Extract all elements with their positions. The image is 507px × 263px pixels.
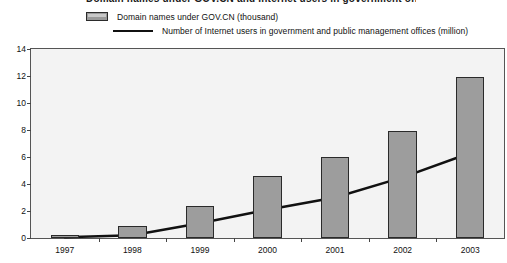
plot-area: 024681012141997199819992000200120022003 <box>30 48 505 239</box>
x-axis-tick-label: 2000 <box>258 245 277 255</box>
x-axis-tick-label: 1998 <box>123 245 142 255</box>
bar-2003 <box>456 77 484 238</box>
x-axis-tick-mark <box>301 238 302 242</box>
plot-area-wrapper: 024681012141997199819992000200120022003 <box>0 40 507 263</box>
y-axis-tick-mark <box>27 238 31 239</box>
x-axis-tick-mark <box>436 238 437 242</box>
x-axis-tick-mark <box>234 238 235 242</box>
chart-figure: Domain names under GOV.CN and Internet u… <box>0 0 507 263</box>
y-axis-tick-mark <box>27 157 31 158</box>
x-axis-tick-label: 1997 <box>55 245 74 255</box>
x-axis-tick-mark <box>369 238 370 242</box>
legend-item-bars: Domain names under GOV.CN (thousand) <box>86 7 506 20</box>
x-axis-tick-label: 2001 <box>326 245 345 255</box>
chart-title-clipped: Domain names under GOV.CN and Internet u… <box>86 0 416 4</box>
y-axis-tick-mark <box>27 103 31 104</box>
bar-1997 <box>51 235 79 238</box>
bar-2002 <box>388 131 416 238</box>
legend-label-line: Number of Internet users in government a… <box>162 26 468 36</box>
bar-2000 <box>253 176 281 238</box>
x-axis-tick-label: 2002 <box>393 245 412 255</box>
x-axis-tick-mark <box>99 238 100 242</box>
line-swatch-icon <box>113 30 153 32</box>
x-axis-tick-mark <box>166 238 167 242</box>
x-axis-tick-label: 2003 <box>461 245 480 255</box>
bar-2001 <box>321 157 349 238</box>
y-axis-tick-mark <box>27 130 31 131</box>
y-axis-tick-mark <box>27 49 31 50</box>
legend-item-line: Number of Internet users in government a… <box>86 21 506 34</box>
y-axis-tick-mark <box>27 211 31 212</box>
x-axis-tick-label: 1999 <box>190 245 209 255</box>
bar-1999 <box>186 206 214 238</box>
page-title: Domain names under GOV.CN and Internet u… <box>86 0 416 4</box>
y-axis-tick-mark <box>27 184 31 185</box>
bar-swatch-icon <box>86 12 108 21</box>
chart-legend: Domain names under GOV.CN (thousand) Num… <box>86 7 506 35</box>
y-axis-tick-mark <box>27 76 31 77</box>
bar-1998 <box>118 226 146 238</box>
